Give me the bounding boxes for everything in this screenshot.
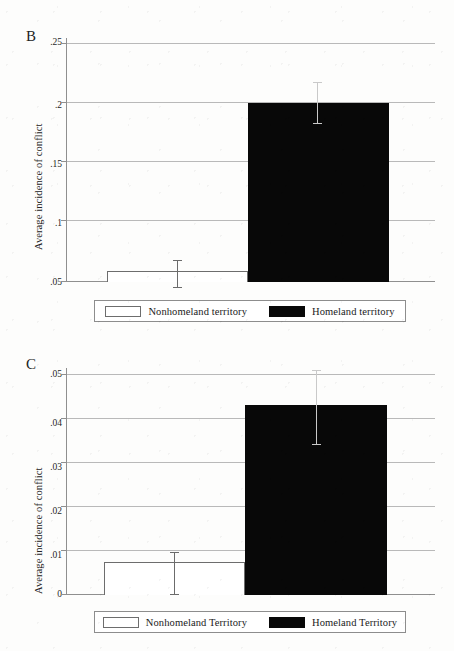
legend-b: Nonhomeland territory Homeland territory [94,300,406,322]
errorbar-cap-top-c-nonhomeland [170,552,179,553]
y-tick-label-b-3: .2 [36,100,62,110]
panel-letter-c: C [26,356,37,373]
legend-label-b-homeland: Homeland territory [312,306,395,317]
panel-b: B Average incidence of conflict .05 .1 .… [0,0,454,330]
errorbar-cap-bottom-c-nonhomeland [170,594,179,595]
bar-b-homeland [248,103,389,282]
errorbar-cap-bottom-c-homeland [312,444,321,445]
legend-swatch-filled-icon [269,617,305,628]
y-tick-label-c-1: .01 [36,550,62,560]
y-tick-label-c-0: 0 [36,589,62,599]
errorbar-b-homeland [317,82,318,123]
y-tick-label-b-1: .1 [36,218,62,228]
plot-area-b [66,38,435,286]
y-axis-title-c: Average incidence of conflict [33,467,44,594]
errorbar-b-nonhomeland [177,260,178,287]
errorbar-cap-top-b-homeland [313,82,322,83]
panel-c: C Average incidence of conflict 0 .01 .0… [0,330,454,651]
y-tick-label-b-2: .15 [36,159,62,169]
y-tick-label-c-5: .05 [36,369,62,379]
legend-swatch-open-icon [105,306,141,317]
errorbar-cap-bottom-b-nonhomeland [173,287,182,288]
panel-letter-b: B [26,28,37,45]
y-tick-mark-c-05 [61,374,66,375]
errorbar-c-homeland [316,370,317,444]
plot-area-c [66,368,435,598]
legend-entry-b-nonhomeland[interactable]: Nonhomeland territory [105,306,247,317]
errorbar-cap-bottom-b-homeland [313,123,322,124]
y-tick-label-b-4: .25 [36,37,62,47]
y-tick-label-c-2: .02 [36,506,62,516]
legend-swatch-filled-icon [269,306,305,317]
y-axis-title-b: Average incidence of conflict [33,123,44,250]
y-axis-line-c [66,368,67,594]
y-tick-mark-b-10 [61,220,66,221]
y-tick-mark-b-25 [61,43,66,44]
legend-entry-b-homeland[interactable]: Homeland territory [269,306,395,317]
y-tick-mark-b-05 [61,281,66,282]
legend-c: Nonhomeland Territory Homeland Territory [94,611,406,633]
legend-label-c-homeland: Homeland Territory [312,617,397,628]
errorbar-cap-top-b-nonhomeland [173,260,182,261]
legend-swatch-open-icon [103,617,139,628]
errorbar-c-nonhomeland [174,552,175,594]
y-tick-mark-b-15 [61,161,66,162]
gridline-b-25 [66,43,435,44]
gridline-c-05 [66,374,435,375]
legend-label-c-nonhomeland: Nonhomeland Territory [146,617,247,628]
figure-container: B Average incidence of conflict .05 .1 .… [0,0,454,651]
y-tick-mark-c-01 [61,550,66,551]
legend-entry-c-homeland[interactable]: Homeland Territory [269,617,397,628]
legend-label-b-nonhomeland: Nonhomeland territory [148,306,247,317]
y-tick-label-c-3: .03 [36,462,62,472]
errorbar-cap-top-c-homeland [312,370,321,371]
y-tick-mark-c-04 [61,418,66,419]
y-tick-mark-c-03 [61,462,66,463]
y-tick-label-c-4: .04 [36,418,62,428]
y-tick-mark-c-00 [61,594,66,595]
y-tick-label-b-0: .05 [36,277,62,287]
legend-entry-c-nonhomeland[interactable]: Nonhomeland Territory [103,617,247,628]
y-tick-mark-c-02 [61,506,66,507]
y-tick-mark-b-20 [61,102,66,103]
y-axis-line-b [66,38,67,281]
